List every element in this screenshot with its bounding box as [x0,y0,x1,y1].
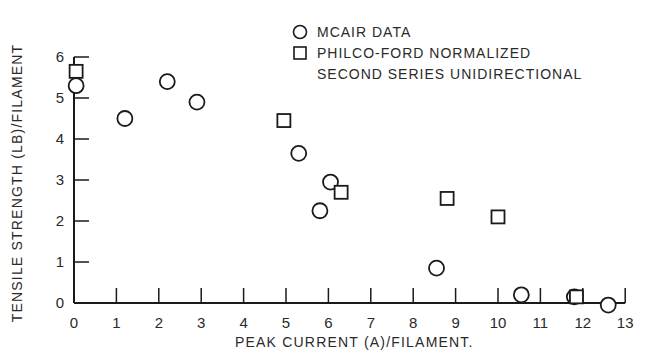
circle-marker [514,287,529,302]
circle-marker [189,95,204,110]
circle-marker [429,261,444,276]
x-tick-label: 1 [112,314,120,331]
square-marker [70,65,83,78]
y-tick-label: 4 [56,130,64,147]
x-axis-title: PEAK CURRENT (A)/FILAMENT. [235,334,474,350]
y-tick-label: 0 [56,294,64,311]
circle-marker [160,74,175,89]
legend-label-philco: PHILCO-FORD NORMALIZED [317,45,531,61]
circle-marker [601,298,616,313]
square-marker [570,290,583,303]
square-marker [441,192,454,205]
x-axis: 012345678910111213 [70,288,634,331]
circle-marker [291,146,306,161]
circle-marker [117,111,132,126]
legend-circle-icon [294,26,307,39]
circle-marker [69,78,84,93]
legend-label-mcair: MCAIR DATA [317,24,411,40]
x-tick-label: 12 [574,314,591,331]
x-tick-label: 13 [617,314,634,331]
y-axis-title: TENSILE STRENGTH (LB)/FILAMENT [9,44,25,323]
x-tick-label: 6 [324,314,332,331]
x-tick-label: 5 [282,314,290,331]
legend-square-icon [294,47,306,59]
scatter-chart: 0123456 012345678910111213 MCAIR DATAPHI… [0,0,650,361]
square-marker [277,114,290,127]
y-tick-label: 5 [56,89,64,106]
x-tick-label: 2 [155,314,163,331]
data-points [69,65,616,313]
x-tick-label: 11 [533,314,549,331]
x-tick-label: 4 [239,314,247,331]
y-tick-label: 6 [56,48,64,65]
legend-label-philco-line2: SECOND SERIES UNIDIRECTIONAL [317,66,582,82]
x-tick-label: 3 [197,314,205,331]
x-tick-label: 7 [367,314,375,331]
square-marker [335,186,348,199]
x-tick-label: 0 [70,314,78,331]
x-tick-label: 8 [409,314,417,331]
circle-marker [312,203,327,218]
x-tick-label: 10 [490,314,507,331]
y-tick-label: 2 [56,212,64,229]
x-tick-label: 9 [451,314,459,331]
y-tick-label: 3 [56,171,64,188]
square-marker [492,210,505,223]
y-tick-label: 1 [56,253,64,270]
legend: MCAIR DATAPHILCO-FORD NORMALIZEDSECOND S… [294,24,583,82]
